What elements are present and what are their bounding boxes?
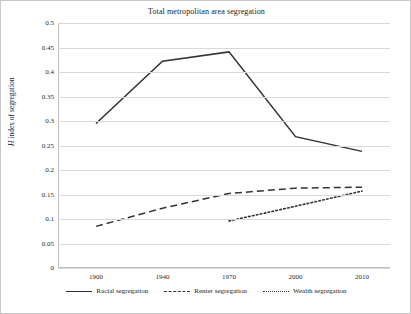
y-tick-label: 0.1 bbox=[45, 215, 54, 223]
y-tick-label: 0.4 bbox=[45, 68, 54, 76]
series-line bbox=[229, 191, 362, 221]
y-tick-label: 0.15 bbox=[42, 191, 54, 199]
legend-label: Racial segregation bbox=[96, 287, 148, 295]
x-tick-label: 1940 bbox=[156, 273, 170, 281]
y-axis-label: H index of segregation bbox=[7, 77, 16, 146]
x-tick-label: 2000 bbox=[289, 273, 303, 281]
gridline bbox=[58, 121, 390, 122]
y-axis-label-rest: index of segregation bbox=[7, 77, 16, 140]
y-tick-label: 0 bbox=[51, 264, 55, 272]
legend-label: Wealth segregation bbox=[293, 287, 347, 295]
legend-item: Wealth segregation bbox=[263, 287, 347, 295]
x-tick-label: 1970 bbox=[222, 273, 236, 281]
chart-container: Total metropolitan area segregation H in… bbox=[0, 0, 411, 314]
legend-label: Renter segregation bbox=[194, 287, 247, 295]
gridline bbox=[58, 72, 390, 73]
gridline bbox=[58, 244, 390, 245]
chart-legend: Racial segregationRenter segregationWeal… bbox=[1, 287, 411, 295]
legend-swatch-dotted bbox=[263, 291, 289, 292]
y-tick-label: 0.05 bbox=[42, 240, 54, 248]
y-tick-label: 0.35 bbox=[42, 93, 54, 101]
y-tick-label: 0.45 bbox=[42, 44, 54, 52]
chart-title: Total metropolitan area segregation bbox=[1, 7, 411, 16]
gridline bbox=[58, 48, 390, 49]
y-tick-label: 0.2 bbox=[45, 166, 54, 174]
series-line bbox=[96, 52, 362, 151]
gridline bbox=[58, 170, 390, 171]
y-axis-label-prefix: H bbox=[7, 141, 16, 146]
gridline bbox=[58, 219, 390, 220]
gridline bbox=[58, 97, 390, 98]
gridline bbox=[58, 23, 390, 24]
y-tick-label: 0.5 bbox=[45, 19, 54, 27]
x-tick-label: 2010 bbox=[355, 273, 369, 281]
legend-item: Renter segregation bbox=[164, 287, 247, 295]
gridline bbox=[58, 195, 390, 196]
legend-item: Racial segregation bbox=[66, 287, 148, 295]
y-tick-label: 0.25 bbox=[42, 142, 54, 150]
gridline bbox=[58, 268, 390, 269]
legend-swatch-dashed bbox=[164, 291, 190, 292]
y-tick-label: 0.3 bbox=[45, 117, 54, 125]
plot-area: 00.050.10.150.20.250.30.350.40.450.5 190… bbox=[58, 23, 390, 268]
legend-swatch-solid bbox=[66, 291, 92, 292]
x-tick-label: 1900 bbox=[89, 273, 103, 281]
gridline bbox=[58, 146, 390, 147]
